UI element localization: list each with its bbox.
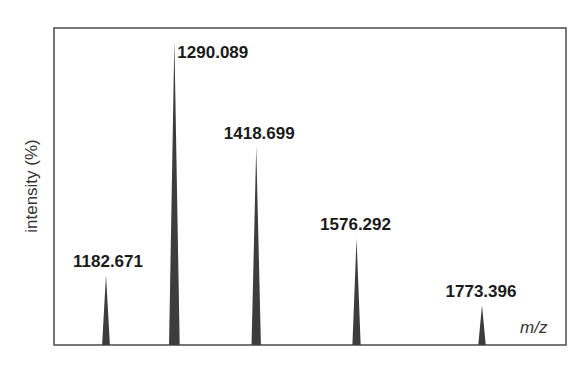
spectrum-peak bbox=[352, 238, 360, 345]
peak-label: 1773.396 bbox=[446, 282, 517, 301]
peak-label: 1182.671 bbox=[73, 252, 143, 271]
spectrum-peak bbox=[478, 305, 485, 345]
peak-labels-group: 1182.6711290.0891418.6991576.2921773.396 bbox=[73, 43, 516, 301]
spectrum-peak bbox=[169, 40, 180, 345]
spectrum-peak bbox=[102, 275, 110, 345]
peak-label: 1418.699 bbox=[224, 124, 295, 143]
mass-spectrum-chart: 1182.6711290.0891418.6991576.2921773.396… bbox=[0, 0, 579, 368]
peak-label: 1290.089 bbox=[177, 43, 248, 62]
x-axis-label: m/z bbox=[520, 318, 548, 337]
peaks-group bbox=[102, 40, 486, 345]
peak-label: 1576.292 bbox=[320, 215, 391, 234]
spectrum-peak bbox=[252, 147, 261, 345]
y-axis-label: intensity (%) bbox=[22, 139, 41, 233]
